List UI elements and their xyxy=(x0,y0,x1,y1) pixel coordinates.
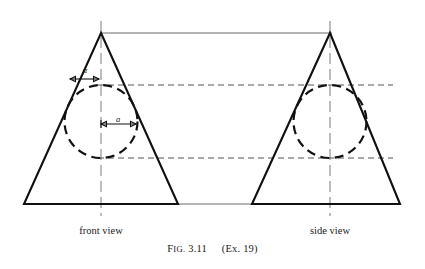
caption-reference: (Ex. 19) xyxy=(222,243,258,254)
caption-number: 3.11 xyxy=(188,243,207,254)
caption-fig-prefix-rest: IG. xyxy=(173,244,185,254)
side-view-label: side view xyxy=(310,225,350,236)
front-view-label: front view xyxy=(79,225,123,236)
radius-label: a xyxy=(116,114,120,124)
alpha-angle-label: α xyxy=(83,65,88,75)
alpha-angle-annotation xyxy=(70,76,99,81)
figure-caption: FIG. 3.11 (Ex. 19) xyxy=(0,243,425,254)
figure-drawing: α a front view side view xyxy=(0,0,425,269)
figure-container: α a front view side view FIG. 3.11 (Ex. … xyxy=(0,0,425,269)
side-view-triangle xyxy=(252,33,400,204)
